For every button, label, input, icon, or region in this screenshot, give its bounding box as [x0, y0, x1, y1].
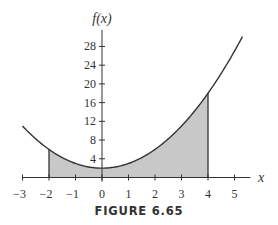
- y-tick-label: 8: [90, 133, 96, 147]
- shaded-area: [49, 93, 208, 177]
- x-tick-label: 5: [232, 187, 238, 201]
- y-tick-label: 24: [84, 58, 96, 72]
- x-axis-label: x: [257, 170, 265, 185]
- y-axis-label: f(x): [92, 11, 112, 27]
- chart-figure: −3−2−1012345481216202428xf(x): [0, 0, 278, 225]
- y-tick-label: 4: [90, 152, 96, 166]
- x-tick-label: −3: [13, 187, 26, 201]
- function-curve: [23, 37, 243, 168]
- y-tick-label: 20: [84, 77, 96, 91]
- x-tick-label: 4: [205, 187, 211, 201]
- x-tick-label: 2: [152, 187, 158, 201]
- figure-caption: FIGURE 6.65: [0, 204, 278, 218]
- y-tick-label: 12: [84, 114, 96, 128]
- y-tick-label: 28: [84, 39, 96, 53]
- y-tick-label: 16: [84, 96, 96, 110]
- x-tick-label: 0: [99, 187, 105, 201]
- x-tick-label: −1: [66, 187, 79, 201]
- x-tick-label: 3: [179, 187, 185, 201]
- x-tick-label: −2: [40, 187, 53, 201]
- x-tick-label: 1: [126, 187, 132, 201]
